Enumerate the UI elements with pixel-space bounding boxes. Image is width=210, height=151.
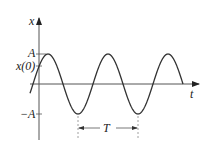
y-axis-label: x — [28, 14, 35, 28]
period-label: T — [103, 121, 111, 135]
shm-diagram: x t A x(0) −A T — [0, 0, 210, 151]
neg-amplitude-label: −A — [20, 107, 36, 121]
x-axis-label: t — [190, 87, 194, 101]
initial-displacement-label: x(0) — [15, 59, 35, 73]
amplitude-label: A — [27, 46, 36, 60]
